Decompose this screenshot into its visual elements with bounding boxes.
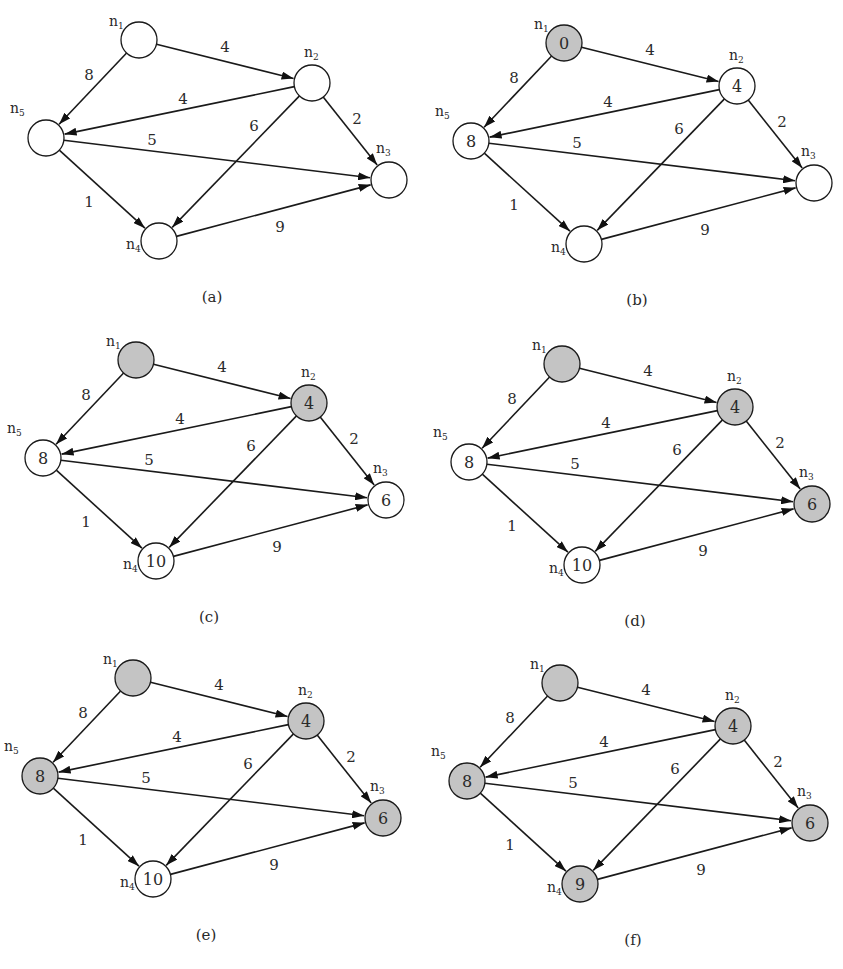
node-n1: n1 [109, 13, 157, 58]
panel-f: 48426519n14n26n39n48n5(f) [421, 643, 843, 963]
edge-weight-label: 2 [352, 110, 362, 128]
node-n1: 0n1 [534, 16, 582, 61]
node-name-label: n3 [801, 143, 816, 161]
edge-weight-label: 4 [645, 41, 655, 59]
node-distance-value: 0 [559, 34, 569, 53]
node-name-label: n3 [376, 140, 391, 158]
edge-weight-label: 8 [507, 390, 517, 408]
node-name-label: n3 [797, 783, 812, 801]
edge-weight-label: 2 [777, 113, 787, 131]
node-n2: n2 [294, 44, 330, 101]
edge-weight-label: 1 [78, 831, 88, 849]
node-n4: 10n4 [120, 861, 171, 897]
panel-caption: (a) [202, 288, 223, 306]
node-name-label: n5 [435, 103, 450, 121]
edge-n5-n3 [489, 143, 795, 181]
node-name-label: n2 [298, 682, 313, 700]
node-name-label: n2 [304, 44, 319, 62]
edge-weight-label: 6 [243, 755, 253, 773]
edge-weight-label: 5 [572, 134, 582, 152]
edge-weight-label: 9 [275, 218, 285, 236]
edge-n5-n3 [64, 140, 370, 178]
panel-caption: (d) [624, 612, 645, 630]
node-distance-value: 6 [805, 814, 815, 833]
edge-weight-label: 2 [775, 434, 785, 452]
node-n4: n4 [126, 223, 177, 259]
node-n1: n1 [106, 333, 154, 378]
node-name-label: n5 [433, 424, 448, 442]
panel-caption: (f) [624, 931, 641, 949]
edge-n2-n3 [323, 97, 377, 165]
node-distance-value: 8 [38, 449, 48, 468]
node-name-label: n4 [120, 874, 135, 892]
edge-weight-label: 8 [505, 709, 515, 727]
node-distance-value: 4 [732, 77, 742, 96]
node-distance-value: 8 [462, 772, 472, 791]
edge-n1-n5 [482, 377, 550, 448]
edge-n1-n5 [480, 696, 548, 767]
edge-weight-label: 4 [214, 676, 224, 694]
node-name-label: n1 [532, 337, 547, 355]
node-distance-value: 4 [728, 717, 738, 736]
edge-n5-n3 [58, 778, 364, 816]
edge-weight-label: 1 [507, 517, 517, 535]
node-name-label: n4 [126, 236, 141, 254]
node-distance-value: 6 [381, 491, 391, 510]
edge-weight-label: 6 [672, 441, 682, 459]
edge-n2-n3 [748, 100, 802, 168]
graph-svg: 48426519n14n26n310n48n5(e) [0, 638, 419, 958]
panel-caption: (b) [626, 291, 647, 309]
node-name-label: n1 [106, 333, 121, 351]
node-distance-value: 10 [572, 556, 592, 575]
node-name-label: n1 [534, 16, 549, 34]
node-name-label: n4 [123, 556, 138, 574]
graph-svg: 48426519n14n26n310n48n5(d) [423, 324, 843, 644]
node-name-label: n3 [799, 464, 814, 482]
node-n3: 6n3 [368, 460, 404, 518]
node-n2: 4n2 [717, 368, 753, 425]
edge-weight-label: 9 [700, 221, 710, 239]
panel-caption: (e) [196, 926, 217, 944]
edge-n5-n4 [59, 150, 145, 228]
edge-weight-label: 8 [78, 704, 88, 722]
node-distance-value: 8 [35, 767, 45, 786]
edge-weight-label: 8 [81, 386, 91, 404]
node-name-label: n5 [7, 420, 22, 438]
panel-b: 484265190n14n2n3n48n5(b) [425, 3, 843, 323]
node-distance-value: 4 [301, 712, 311, 731]
node-name-label: n5 [4, 738, 19, 756]
node-n3: 6n3 [365, 778, 401, 836]
node-name-label: n1 [103, 651, 118, 669]
edge-weight-label: 4 [175, 410, 185, 428]
edge-n5-n3 [61, 460, 367, 498]
edge-weight-label: 4 [217, 358, 227, 376]
node-name-label: n3 [373, 460, 388, 478]
node-name-label: n1 [109, 13, 124, 31]
edge-weight-label: 6 [249, 117, 259, 135]
edge-weight-label: 8 [84, 66, 94, 84]
edge-weight-label: 8 [509, 69, 519, 87]
node-n4: 10n4 [123, 543, 174, 579]
node-name-label: n1 [530, 656, 545, 674]
edge-weight-label: 6 [674, 120, 684, 138]
edge-weight-label: 1 [81, 513, 91, 531]
edge-n5-n4 [482, 474, 568, 552]
edge-n1-n5 [484, 56, 552, 127]
node-n4: 9n4 [547, 866, 598, 902]
edge-n1-n5 [53, 691, 121, 762]
edge-weight-label: 6 [670, 760, 680, 778]
node-n3: n3 [371, 140, 407, 198]
node-n4: 10n4 [549, 547, 600, 583]
panel-e: 48426519n14n26n310n48n5(e) [0, 638, 419, 958]
visited-node-circle [118, 342, 154, 378]
edge-n5-n3 [485, 783, 791, 821]
graph-svg: 48426519n14n26n39n48n5(f) [421, 643, 843, 963]
unvisited-node-circle [371, 162, 407, 198]
edge-weight-label: 5 [147, 131, 157, 149]
node-name-label: n2 [301, 364, 316, 382]
visited-node-circle [544, 346, 580, 382]
edge-weight-label: 5 [144, 451, 154, 469]
node-n5: 8n5 [431, 743, 485, 799]
node-n2: 4n2 [719, 47, 755, 104]
node-distance-value: 6 [807, 495, 817, 514]
